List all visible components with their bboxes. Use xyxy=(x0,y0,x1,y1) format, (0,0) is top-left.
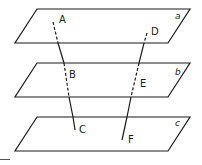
point-label-f: F xyxy=(128,134,134,145)
line-def-segment xyxy=(127,97,131,117)
point-label-c: C xyxy=(79,124,86,135)
plane-c xyxy=(15,117,190,151)
point-label-d: D xyxy=(151,26,159,37)
plane-label-b: b xyxy=(175,67,181,77)
point-label-b: B xyxy=(69,69,76,80)
parallel-planes-diagram: abcABCDEF xyxy=(0,0,202,165)
line-def-segment xyxy=(139,43,144,63)
line-abc-segment xyxy=(58,43,64,63)
plane-a xyxy=(15,9,190,43)
plane-label-c: c xyxy=(175,118,180,128)
corner-mark xyxy=(0,159,10,160)
line-abc-segment xyxy=(69,97,73,117)
planes-group xyxy=(15,9,190,151)
point-label-e: E xyxy=(140,78,146,89)
plane-b xyxy=(15,63,190,97)
point-label-a: A xyxy=(59,14,66,25)
plane-label-a: a xyxy=(175,11,181,21)
